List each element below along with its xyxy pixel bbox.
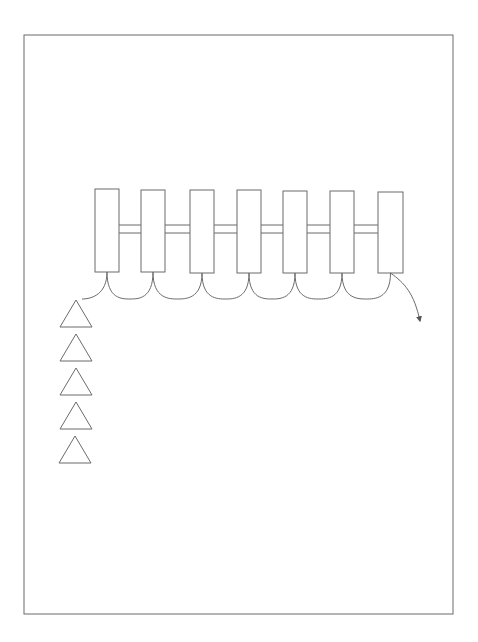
lead-arc <box>82 272 107 299</box>
triangle-4 <box>60 402 92 429</box>
scallop-arc <box>342 273 391 299</box>
triangle-1 <box>60 300 92 327</box>
triangle-2 <box>60 334 92 361</box>
triangle-3 <box>60 368 92 395</box>
rectangle-7 <box>378 192 403 273</box>
rectangle-3 <box>190 190 214 273</box>
diagram-svg <box>0 0 478 642</box>
rectangle-row <box>95 189 403 273</box>
triangle-5 <box>59 436 91 463</box>
triangle-column <box>59 300 92 463</box>
diagram-canvas <box>0 0 478 642</box>
scallop-arc <box>249 273 295 299</box>
exit-arrow-icon <box>391 273 421 321</box>
rectangle-5 <box>283 191 307 273</box>
rectangle-6 <box>330 191 354 273</box>
scallop-arc <box>202 273 249 299</box>
scallop-arc <box>153 272 202 299</box>
rectangle-1 <box>95 189 119 272</box>
scallop-arc <box>107 272 153 299</box>
scallop-arc <box>295 273 342 299</box>
rectangle-2 <box>141 190 165 272</box>
scallop-arcs <box>82 272 391 299</box>
rectangle-4 <box>237 190 261 273</box>
